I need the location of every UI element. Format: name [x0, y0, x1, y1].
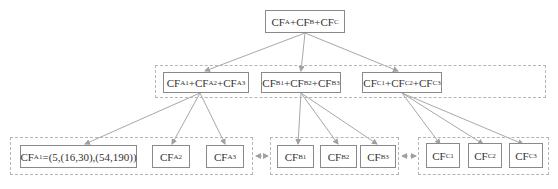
sub: C2	[488, 152, 496, 160]
cf-prefix: CF	[262, 77, 275, 89]
leaf-a1: CFA1=(5,(16,30),(54,190))	[20, 145, 137, 168]
sub: B2	[304, 79, 312, 87]
cf-prefix: CF	[214, 151, 227, 163]
node-c: CFC1+CFC2+CFC3	[362, 72, 442, 93]
leaf-b3: CFB3	[360, 145, 396, 168]
cf-prefix: CF	[419, 77, 432, 89]
sub: B3	[381, 153, 389, 161]
sub: C1	[377, 79, 385, 87]
cf-prefix: CF	[432, 150, 445, 162]
node-b: CFB1+CFB2+CFB3	[261, 72, 341, 93]
cf-prefix: CF	[474, 150, 487, 162]
leaf-c3: CFC3	[509, 143, 543, 168]
sub: B3	[332, 79, 340, 87]
cf-prefix: CF	[391, 77, 404, 89]
cf-prefix: CF	[367, 151, 380, 163]
node-a: CFA1+CFA2+CFA3	[163, 72, 249, 93]
cf-prefix: CF	[285, 151, 298, 163]
leaf-c2: CFC2	[468, 143, 502, 168]
leaf-c1: CFC1	[426, 143, 460, 168]
leaf-a3: CFA3	[206, 145, 244, 168]
sub: A3	[227, 153, 236, 161]
sub: B1	[276, 79, 284, 87]
cf-prefix: CF	[271, 16, 284, 28]
sub: B2	[341, 153, 349, 161]
sub: A2	[173, 153, 182, 161]
sub: A1	[34, 153, 43, 161]
sub: A2	[208, 79, 217, 87]
root-node: CFA+CFB+CFC	[265, 10, 345, 33]
sub: B1	[298, 153, 306, 161]
cf-prefix: CF	[160, 151, 173, 163]
sub-c: C	[334, 18, 339, 26]
sub: C3	[529, 152, 537, 160]
sub: C1	[446, 152, 454, 160]
cf-prefix: CF	[363, 77, 376, 89]
sub: A1	[180, 79, 189, 87]
cf-prefix: CF	[20, 151, 33, 163]
leaf-a2: CFA2	[152, 145, 190, 168]
cf-prefix: CF	[223, 77, 236, 89]
cf-prefix: CF	[328, 151, 341, 163]
sub: A3	[237, 79, 246, 87]
cf-prefix: CF	[515, 150, 528, 162]
cf-prefix: CF	[318, 77, 331, 89]
cf-prefix: CF	[290, 77, 303, 89]
cf-prefix: CF	[195, 77, 208, 89]
leaf-a1-value: =(5,(16,30),(54,190))	[42, 151, 136, 163]
cf-prefix: CF	[167, 77, 180, 89]
sub: C3	[433, 79, 441, 87]
cf-prefix: CF	[296, 16, 309, 28]
sub: C2	[405, 79, 413, 87]
leaf-b1: CFB1	[277, 145, 314, 168]
cf-prefix: CF	[320, 16, 333, 28]
leaf-b2: CFB2	[320, 145, 357, 168]
